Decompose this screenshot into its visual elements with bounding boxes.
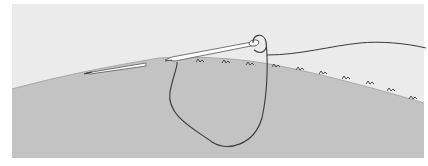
sewing-illustration (0, 0, 428, 166)
